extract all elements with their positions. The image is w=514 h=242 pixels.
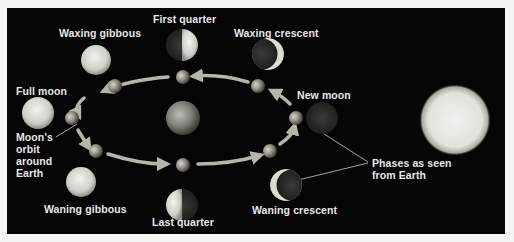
waning-gibbous-moon-icon (66, 167, 96, 197)
label-waning-crescent: Waning crescent (252, 204, 337, 216)
label-waxing-crescent: Waxing crescent (234, 27, 319, 39)
waning-crescent-moon-icon (270, 169, 308, 201)
full-moon-icon (22, 97, 54, 129)
orbit-label-line-3: around (16, 155, 53, 167)
label-phases-as-seen-from-earth: Phases as seen from Earth (372, 157, 452, 181)
new-moon-icon (306, 102, 338, 134)
phases-label-line-1: Phases as seen (372, 157, 452, 169)
orbit-moon-waning-crescent-icon (263, 144, 277, 158)
label-waning-gibbous: Waning gibbous (44, 203, 127, 215)
orbit-moon-waxing-crescent-icon (251, 79, 265, 93)
label-first-quarter: First quarter (153, 13, 216, 25)
earth-icon (166, 101, 200, 135)
first-quarter-moon-icon (166, 29, 198, 61)
orbit-label-line-1: Moon's (16, 131, 53, 143)
label-last-quarter: Last quarter (152, 216, 214, 228)
orbit-moon-full-icon (65, 111, 79, 125)
label-waxing-gibbous: Waxing gibbous (59, 27, 141, 39)
orbit-moon-waning-gibbous-icon (89, 144, 103, 158)
label-full-moon: Full moon (16, 85, 67, 97)
label-orbit-around-earth: Moon's orbit around Earth (16, 131, 53, 179)
orbit-moon-new-icon (289, 111, 303, 125)
orbit-label-line-4: Earth (16, 167, 53, 179)
sun-icon (419, 84, 491, 156)
orbit-moon-last-quarter-icon (176, 158, 190, 172)
waxing-crescent-moon-icon (247, 38, 285, 70)
orbit-label-line-2: orbit (16, 143, 53, 155)
waxing-gibbous-moon-icon (81, 45, 111, 75)
waning-crescent-pointer-line (290, 163, 368, 182)
phases-label-line-2: from Earth (372, 169, 452, 181)
label-new-moon: New moon (297, 89, 351, 101)
orbit-pointer-line (56, 124, 77, 137)
orbit-moon-first-quarter-icon (176, 70, 190, 84)
orbit-moon-waxing-gibbous-icon (108, 79, 122, 93)
